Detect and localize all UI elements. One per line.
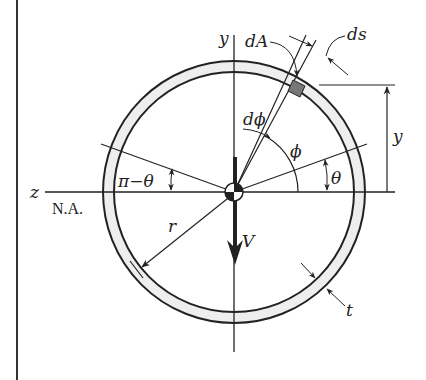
pi-minus-theta-label: π−θ [117, 171, 154, 191]
radius-label: r [168, 216, 177, 236]
ds-arrow-right [328, 58, 348, 75]
tube-shear-diagram: y z N.A. dA ds dϕ ϕ θ π−θ y r V t [0, 0, 426, 380]
ds-label: ds [347, 24, 367, 44]
radius-line [142, 195, 232, 267]
neutral-axis-label: N.A. [52, 200, 83, 217]
dphi-label: dϕ [243, 109, 266, 129]
pi-theta-arrow-up [171, 169, 172, 180]
ds-leader [326, 36, 345, 56]
y-dimension-label: y [392, 126, 403, 146]
t-arrow-inner [301, 263, 315, 278]
y-axis-label: y [218, 28, 229, 48]
thickness-label: t [346, 300, 353, 320]
t-arrow-outer [327, 289, 345, 306]
shear-force-label: V [242, 231, 256, 251]
dA-label: dA [245, 31, 268, 51]
theta-arrow-right-up [325, 160, 327, 175]
theta-label: θ [331, 168, 341, 188]
centroid-icon [225, 183, 243, 201]
z-axis-label: z [29, 182, 40, 202]
ds-arrow-left [289, 36, 312, 46]
phi-label: ϕ [290, 141, 302, 161]
